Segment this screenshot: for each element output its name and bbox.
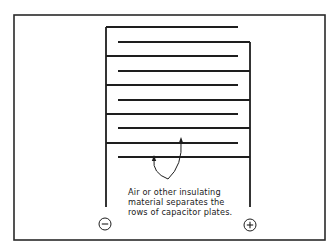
- arrow-curve-left: [154, 159, 168, 179]
- caption-line-3: rows of capacitor plates.: [128, 207, 232, 217]
- arrowhead-icon: [152, 155, 156, 161]
- caption-line-1: Air or other insulating: [128, 187, 232, 197]
- positive-terminal-icon: [244, 219, 256, 231]
- arrowhead-icon: [179, 137, 183, 143]
- left-plate-comb: [106, 27, 238, 207]
- arrow-curve-right: [168, 141, 181, 179]
- negative-terminal-icon: [99, 218, 111, 230]
- right-plate-comb: [118, 42, 250, 207]
- callout-caption: Air or other insulating material separat…: [128, 187, 232, 217]
- caption-line-2: material separates the: [128, 197, 232, 207]
